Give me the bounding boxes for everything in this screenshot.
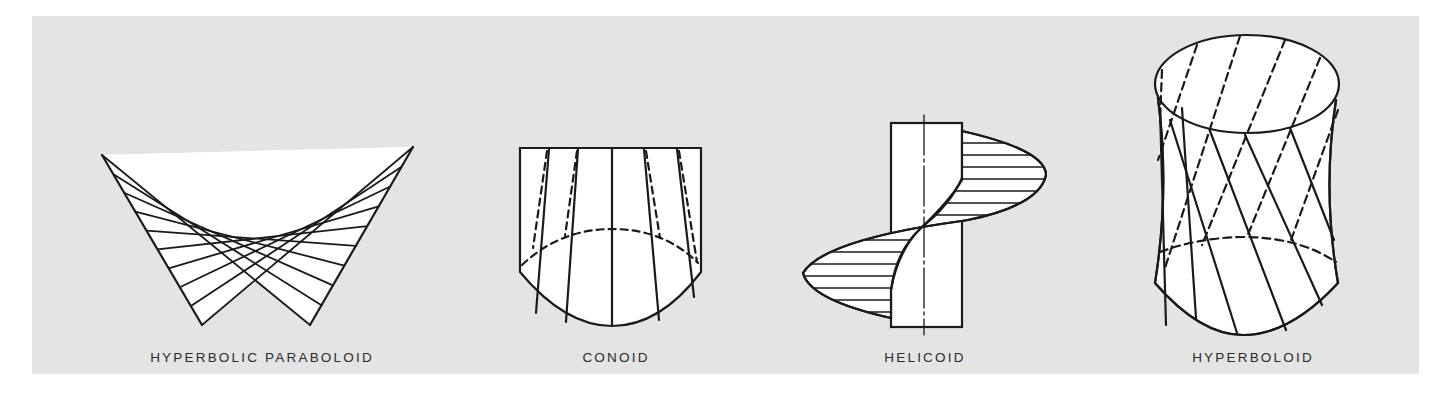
hyperboloid-drawing: [1155, 35, 1339, 335]
label-conoid: CONOID: [560, 350, 672, 366]
conoid-drawing: [520, 148, 701, 326]
ruled-surfaces-figure: [0, 0, 1450, 393]
hyperbolic-paraboloid-drawing: [102, 147, 413, 325]
label-hyperboloid: HYPERBOLOID: [1162, 350, 1344, 366]
label-hyperbolic-paraboloid: HYPERBOLIC PARABOLOID: [104, 350, 420, 366]
label-helicoid: HELICOID: [862, 350, 988, 366]
helicoid-drawing: [790, 115, 1060, 335]
